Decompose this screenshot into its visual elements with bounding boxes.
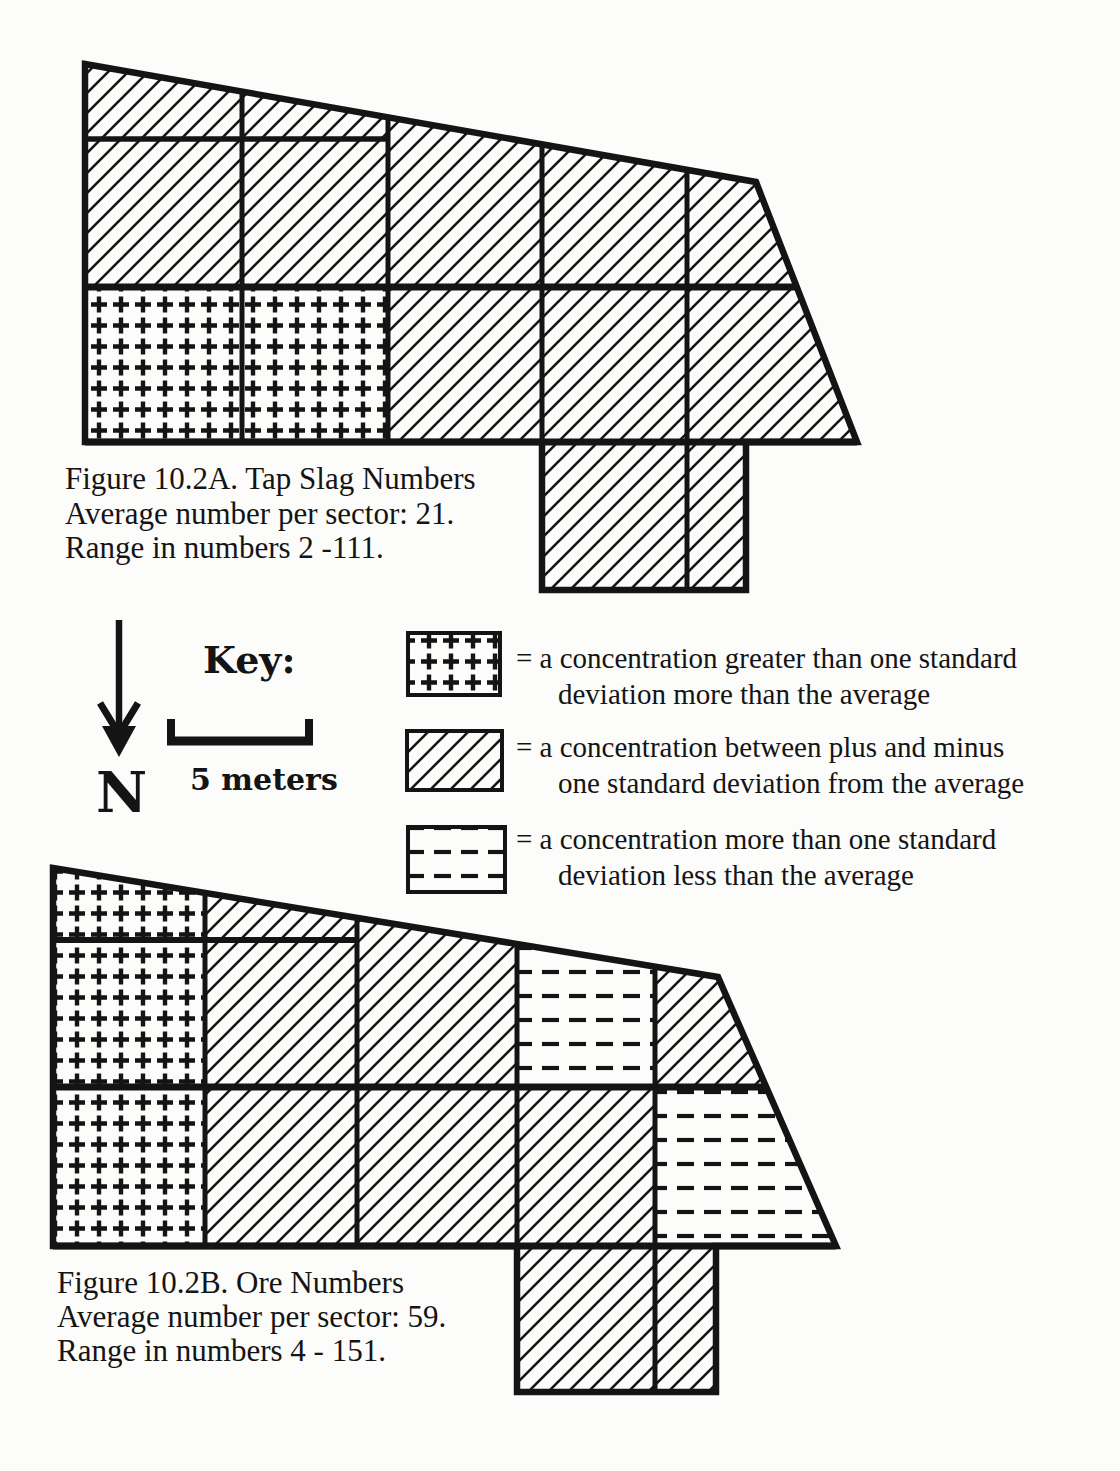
map-a-sector-r3c3 (388, 287, 542, 442)
figure-b-caption-range: Range in numbers 4 - 151. (57, 1333, 386, 1368)
figure-10-2-svg: Figure 10.2A. Tap Slag Numbers Average n… (0, 0, 1120, 1471)
map-b-sector-r2c2 (205, 940, 357, 1087)
figure-a-caption-title: Figure 10.2A. Tap Slag Numbers (65, 461, 476, 496)
legend-text-dash-line1: = a concentration more than one standard (516, 823, 997, 855)
figure-b-caption-title: Figure 10.2B. Ore Numbers (57, 1265, 404, 1300)
legend-text-plus-line2: deviation more than the average (558, 678, 930, 710)
figure-b-caption-average: Average number per sector: 59. (57, 1299, 446, 1334)
map-b-sector-tab-east (655, 1246, 716, 1392)
legend-text-plus-line1: = a concentration greater than one stand… (516, 642, 1018, 674)
map-b-sector-r3c2 (205, 1087, 357, 1246)
legend-text-dash-line2: deviation less than the average (558, 859, 914, 891)
legend-text-hatch-line2: one standard deviation from the average (558, 767, 1024, 799)
figure-a-caption-average: Average number per sector: 21. (65, 496, 454, 531)
figure-a-caption-range: Range in numbers 2 -111. (65, 530, 384, 565)
map-a-sector-r2c1 (85, 139, 242, 287)
legend-swatch-plus (408, 633, 500, 695)
map-b-sector-r3c3 (357, 1087, 517, 1246)
map-a-sector-tab-east (687, 442, 746, 590)
map-a-sector-r3c2 (242, 287, 388, 442)
map-b-sector-r2c1 (53, 940, 205, 1087)
map-a-sector-tab-west (542, 442, 687, 590)
legend-text-hatch-line1: = a concentration between plus and minus (516, 731, 1004, 763)
map-b-sector-r3c4 (517, 1087, 655, 1246)
legend-swatch-hatch (407, 731, 502, 790)
map-b-sector-r3c1 (53, 1087, 205, 1246)
north-label: N (96, 759, 147, 825)
map-a-sector-r2c2 (242, 139, 388, 287)
scanned-figure-page: Figure 10.2A. Tap Slag Numbers Average n… (0, 0, 1120, 1471)
map-b-sector-tab-west (517, 1246, 655, 1392)
key-heading: Key: (203, 637, 295, 682)
scale-bar-label: 5 meters (190, 762, 338, 797)
legend-swatch-dash (408, 827, 505, 892)
map-a-sector-r3c1 (85, 287, 242, 442)
map-a-sector-r3c4 (542, 287, 687, 442)
